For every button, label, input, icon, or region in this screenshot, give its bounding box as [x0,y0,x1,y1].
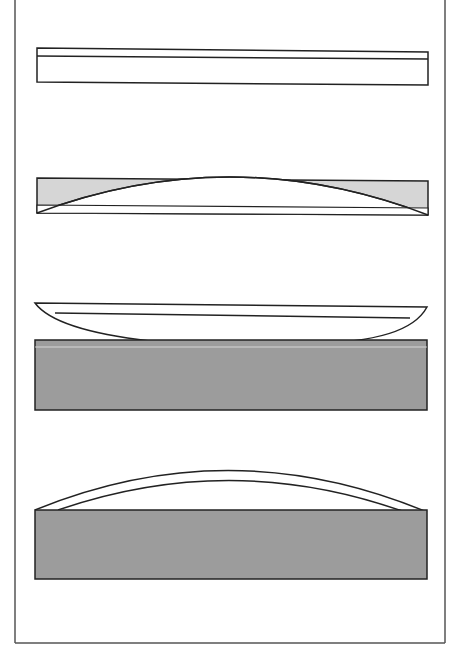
panel-4-dome-on-block [35,470,427,579]
panel-2-lens-in-plate [37,177,428,215]
diagram-canvas [0,0,464,650]
panel-3-lens-on-block [35,303,427,410]
panel-1-flat-plate [37,48,428,85]
